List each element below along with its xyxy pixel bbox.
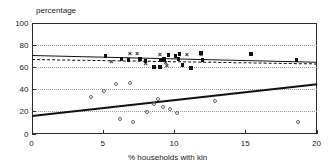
data-point-cross: × — [198, 51, 204, 58]
data-point-filled-square — [181, 63, 185, 67]
y-tick-mark — [32, 67, 36, 68]
data-point-filled-square — [178, 52, 182, 56]
data-point-filled-square — [158, 65, 162, 69]
data-point-cross: × — [108, 58, 114, 65]
x-axis-title: % households with kin — [128, 153, 207, 162]
y-tick-label: 100 — [15, 18, 28, 27]
data-point-open-circle — [161, 105, 165, 109]
data-point-open-circle — [102, 89, 106, 93]
x-tick-mark — [32, 130, 33, 134]
gridline-y — [32, 45, 317, 46]
data-point-open-circle — [296, 120, 300, 124]
y-axis-title: percentage — [36, 6, 76, 15]
y-tick-label: 80 — [20, 40, 29, 49]
chart-container: percentage % households with kin 0204060… — [0, 0, 328, 168]
x-tick-label: 5 — [101, 139, 105, 148]
x-tick-mark — [174, 130, 175, 134]
y-tick-mark — [32, 134, 36, 135]
data-point-filled-square — [201, 58, 205, 62]
y-tick-label: 60 — [20, 62, 29, 71]
y-tick-mark — [32, 89, 36, 90]
plot-frame — [32, 23, 317, 134]
data-point-open-circle — [152, 102, 156, 106]
data-point-filled-square — [167, 53, 171, 57]
data-point-cross: × — [134, 50, 140, 57]
data-point-open-circle — [114, 82, 118, 86]
y-tick-mark — [32, 23, 36, 24]
x-tick-label: 10 — [170, 139, 179, 148]
x-tick-label: 20 — [312, 139, 321, 148]
data-point-open-circle — [175, 111, 179, 115]
data-point-filled-square — [177, 57, 181, 61]
y-tick-label: 0 — [24, 129, 28, 138]
data-point-cross: × — [184, 51, 190, 58]
data-point-filled-square — [127, 58, 131, 62]
y-tick-label: 40 — [20, 85, 29, 94]
data-point-open-circle — [156, 97, 160, 101]
data-point-cross: × — [164, 62, 170, 69]
data-point-filled-square — [152, 65, 156, 69]
y-tick-mark — [32, 45, 36, 46]
y-tick-label: 20 — [20, 107, 29, 116]
data-point-filled-square — [249, 52, 253, 56]
x-tick-mark — [317, 130, 318, 134]
data-point-cross: × — [157, 51, 163, 58]
data-point-open-circle — [131, 120, 135, 124]
x-tick-mark — [103, 130, 104, 134]
gridline-y — [32, 67, 317, 68]
data-point-filled-square — [104, 54, 108, 58]
x-tick-label: 15 — [241, 139, 250, 148]
data-point-filled-square — [138, 57, 142, 61]
y-tick-mark — [32, 111, 36, 112]
data-point-filled-square — [189, 66, 193, 70]
data-point-open-circle — [168, 107, 172, 111]
data-point-open-circle — [128, 81, 132, 85]
data-point-filled-square — [295, 58, 299, 62]
x-tick-label: 0 — [29, 139, 33, 148]
data-point-cross: × — [127, 50, 133, 57]
x-tick-mark — [245, 130, 246, 134]
data-point-filled-square — [120, 57, 124, 61]
data-point-open-circle — [118, 117, 122, 121]
data-point-cross: × — [143, 60, 149, 67]
